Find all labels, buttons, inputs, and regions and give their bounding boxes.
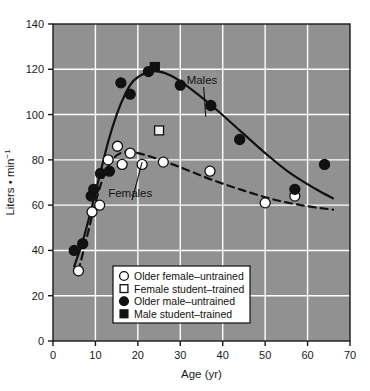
legend-marker-2 [120, 297, 129, 306]
data-point [320, 159, 330, 169]
y-tick-label: 0 [38, 335, 44, 347]
series-3 [150, 63, 159, 72]
data-point [125, 89, 135, 99]
x-tick-label: 70 [344, 349, 356, 361]
data-point [95, 200, 105, 210]
data-point [125, 148, 135, 158]
data-point [78, 239, 88, 249]
legend-label-2: Older male–untrained [134, 295, 235, 307]
legend-marker-0 [120, 272, 129, 281]
y-tick-label: 80 [32, 154, 44, 166]
data-point [73, 266, 83, 276]
x-tick-label: 30 [174, 349, 186, 361]
males-label: Males [187, 74, 218, 86]
y-tick-label: 120 [26, 63, 44, 75]
data-point [206, 101, 216, 111]
x-tick-label: 0 [50, 349, 56, 361]
data-point [260, 198, 270, 208]
x-tick-label: 20 [132, 349, 144, 361]
legend-label-0: Older female–untrained [134, 270, 244, 282]
series-1 [155, 126, 164, 135]
data-point [116, 78, 126, 88]
data-point [175, 80, 185, 90]
data-point [158, 157, 168, 167]
data-point [290, 184, 300, 194]
x-tick-label: 40 [217, 349, 229, 361]
y-tick-label: 20 [32, 290, 44, 302]
legend: Older female–untrainedFemale student–tra… [113, 266, 250, 323]
data-point [117, 159, 127, 169]
data-point [235, 134, 245, 144]
y-tick-label: 60 [32, 199, 44, 211]
legend-marker-3 [120, 310, 128, 318]
data-point [205, 166, 215, 176]
x-tick-label: 60 [301, 349, 313, 361]
data-point [104, 166, 114, 176]
x-tick-label: 10 [89, 349, 101, 361]
data-point [69, 245, 79, 255]
data-point [137, 159, 147, 169]
y-axis-title: Liters • min−1 [3, 149, 16, 216]
data-point [150, 63, 159, 72]
data-point [103, 155, 113, 165]
data-point [155, 126, 164, 135]
y-axis-title-exponent: −1 [3, 149, 12, 159]
chart-figure: 010203040506070020406080100120140Age (yr… [0, 0, 370, 391]
legend-label-3: Male student–trained [134, 308, 232, 320]
data-point [112, 141, 122, 151]
scatter-plot-svg: 010203040506070020406080100120140Age (yr… [0, 0, 370, 391]
legend-label-1: Female student–trained [134, 283, 244, 295]
y-tick-label: 100 [26, 109, 44, 121]
y-tick-label: 40 [32, 244, 44, 256]
x-axis-title: Age (yr) [181, 368, 222, 380]
y-tick-label: 140 [26, 18, 44, 30]
females-label: Females [108, 187, 152, 199]
data-point [89, 184, 99, 194]
legend-marker-1 [120, 285, 128, 293]
x-tick-label: 50 [259, 349, 271, 361]
